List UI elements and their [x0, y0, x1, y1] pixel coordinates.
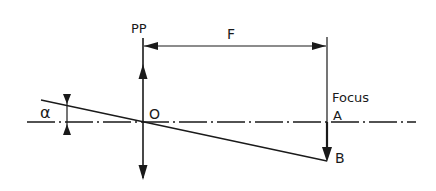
- oblique-ray: [41, 100, 327, 161]
- angle-top-arrow-icon: [63, 94, 71, 104]
- label-point-a: A: [333, 108, 342, 123]
- lens-up-arrow-icon: [139, 64, 148, 79]
- label-angle-alpha: α: [40, 103, 51, 122]
- dimension-left-arrow-icon: [144, 42, 158, 50]
- label-focal-length: F: [227, 26, 235, 42]
- angle-marker: [63, 94, 71, 135]
- focal-plane: [322, 37, 332, 162]
- lens-principal-plane: [139, 38, 148, 180]
- label-focus: Focus: [332, 90, 369, 105]
- label-point-b: B: [335, 150, 345, 166]
- lens-down-arrow-icon: [139, 165, 148, 180]
- optics-diagram: PP F Focus A B O α: [0, 0, 436, 191]
- label-principal-plane: PP: [131, 21, 147, 36]
- dimension-right-arrow-icon: [312, 42, 326, 50]
- angle-bottom-arrow-icon: [63, 124, 71, 135]
- label-optical-center: O: [149, 106, 160, 122]
- focal-length-dimension: [144, 42, 326, 50]
